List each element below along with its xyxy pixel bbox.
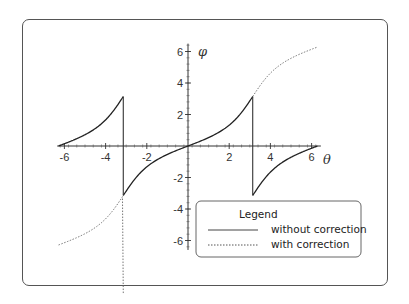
y-axis-label: φ xyxy=(198,44,208,59)
x-tick-label: -6 xyxy=(60,151,70,163)
legend-label-with-correction: with correction xyxy=(271,238,349,250)
x-tick-label: 4 xyxy=(267,151,273,163)
x-tick-label: 6 xyxy=(309,151,315,163)
phase-plot: -6-4-2246642-2-4-6θφ Legend without corr… xyxy=(0,0,409,304)
y-tick-label: -6 xyxy=(173,235,183,247)
x-tick-label: 2 xyxy=(226,151,232,163)
y-tick-label: 2 xyxy=(177,109,183,121)
legend: Legend without correction with correctio… xyxy=(196,201,367,257)
y-tick-label: 4 xyxy=(177,77,183,89)
legend-label-without-correction: without correction xyxy=(271,223,367,235)
series-with-correction xyxy=(59,197,124,295)
x-tick-label: -4 xyxy=(101,151,111,163)
y-tick-label: -4 xyxy=(173,203,183,215)
y-tick-label: -2 xyxy=(173,172,183,184)
x-tick-label: -2 xyxy=(142,151,152,163)
y-tick-label: 6 xyxy=(177,46,183,58)
legend-title: Legend xyxy=(239,208,278,220)
x-axis-label: θ xyxy=(323,152,331,167)
series-without-correction xyxy=(59,97,124,146)
series-with-correction xyxy=(253,47,318,96)
